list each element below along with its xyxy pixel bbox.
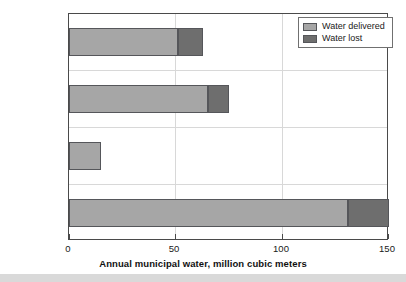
bar-segment-lost bbox=[348, 199, 389, 227]
legend-entry-water-delivered[interactable]: Water delivered bbox=[303, 21, 388, 32]
bar-group-recycled bbox=[69, 142, 101, 170]
chart-legend[interactable]: Water delivered Water lost bbox=[298, 17, 393, 48]
xtick-mark-100 bbox=[282, 234, 283, 239]
gridline-horizontal-1 bbox=[69, 70, 387, 71]
bar-segment-lost bbox=[178, 28, 204, 56]
gridline-horizontal-3 bbox=[69, 184, 387, 185]
bar-group-cap-water bbox=[69, 28, 203, 56]
bar-segment-delivered bbox=[69, 199, 348, 227]
xtick-label-100: 100 bbox=[273, 243, 289, 254]
legend-entry-water-lost[interactable]: Water lost bbox=[303, 33, 388, 44]
plot-area: CAP water Groundwater Recycled Total bbox=[68, 13, 388, 240]
x-axis-title: Annual municipal water, million cubic me… bbox=[0, 258, 406, 269]
legend-label-water-lost: Water lost bbox=[322, 34, 362, 43]
bar-segment-lost bbox=[208, 85, 229, 113]
bar-segment-delivered bbox=[69, 85, 208, 113]
gridline-horizontal-2 bbox=[69, 127, 387, 128]
legend-swatch-icon-delivered bbox=[303, 23, 317, 31]
xtick-label-0: 0 bbox=[65, 243, 70, 254]
legend-label-water-delivered: Water delivered bbox=[322, 22, 385, 31]
xtick-label-50: 50 bbox=[169, 243, 180, 254]
xtick-mark-50 bbox=[175, 234, 176, 239]
xtick-mark-0 bbox=[69, 234, 70, 239]
bar-group-total bbox=[69, 199, 389, 227]
bar-group-groundwater bbox=[69, 85, 229, 113]
xtick-label-150: 150 bbox=[379, 243, 395, 254]
bar-segment-delivered bbox=[69, 142, 101, 170]
legend-swatch-icon-lost bbox=[303, 35, 317, 43]
bottom-band bbox=[0, 274, 406, 282]
xtick-mark-150 bbox=[388, 234, 389, 239]
bar-segment-delivered bbox=[69, 28, 178, 56]
chart-figure: CAP water Groundwater Recycled Total bbox=[0, 0, 406, 282]
